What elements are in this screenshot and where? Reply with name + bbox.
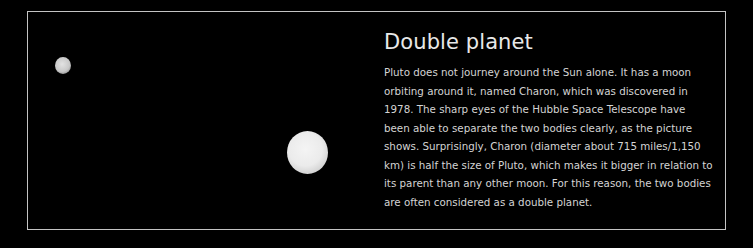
info-panel: Double planet Pluto does not journey aro… <box>384 28 714 211</box>
charon-moon-image <box>55 57 71 74</box>
panel-body-text: Pluto does not journey around the Sun al… <box>384 63 714 211</box>
pluto-planet-image <box>287 131 328 174</box>
panel-title: Double planet <box>384 28 714 56</box>
